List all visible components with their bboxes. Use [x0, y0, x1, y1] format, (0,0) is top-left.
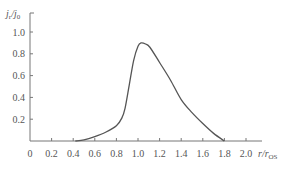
y-tick-label: 0.2 — [13, 114, 26, 125]
x-tick-label: 1.6 — [197, 148, 210, 159]
x-tick-label: 1.0 — [132, 148, 145, 159]
y-tick-label: 0.6 — [13, 70, 26, 81]
x-tick-label: 2.0 — [240, 148, 253, 159]
y-tick-label: 0.4 — [13, 92, 26, 103]
line-chart: 0.20.40.60.81.0 jr/j0 00.20.40.60.81.01.… — [0, 0, 297, 170]
data-curve — [75, 43, 224, 141]
x-tick-label: 1.8 — [218, 148, 231, 159]
x-tick-label: 1.4 — [175, 148, 188, 159]
x-tick-label: 0.8 — [110, 148, 123, 159]
x-axis: 00.20.40.60.81.01.21.41.61.82.0 r/rOS — [28, 138, 278, 161]
x-tick-label: 0 — [28, 148, 33, 159]
x-axis-label: r/rOS — [258, 148, 278, 161]
y-tick-label: 1.0 — [13, 27, 26, 38]
y-axis: 0.20.40.60.81.0 jr/j0 — [4, 8, 34, 141]
x-tick-label: 0.2 — [45, 148, 58, 159]
y-axis-label: jr/j0 — [4, 8, 21, 21]
y-tick-label: 0.8 — [13, 48, 26, 59]
x-tick-label: 0.6 — [89, 148, 102, 159]
x-tick-label: 0.4 — [67, 148, 80, 159]
x-tick-label: 1.2 — [153, 148, 166, 159]
